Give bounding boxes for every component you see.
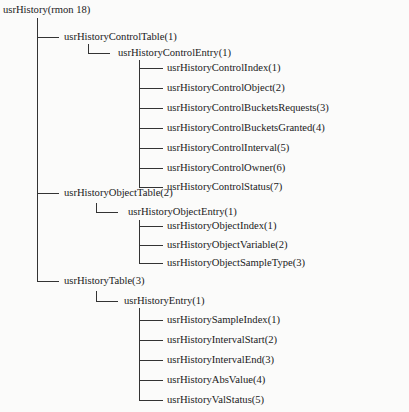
connector-line bbox=[139, 263, 163, 264]
leaf-node: usrHistoryControlStatus(7) bbox=[167, 181, 282, 193]
leaf-node: usrHistoryAbsValue(4) bbox=[167, 374, 265, 386]
connector-line bbox=[139, 168, 163, 169]
connector-line bbox=[96, 212, 118, 213]
leaf-node: usrHistoryValStatus(5) bbox=[167, 394, 264, 406]
connector-line bbox=[139, 128, 163, 129]
leaf-node: usrHistoryIntervalEnd(3) bbox=[167, 354, 274, 366]
connector-line bbox=[139, 148, 163, 149]
node-history-table: usrHistoryTable(3) bbox=[64, 275, 144, 287]
elbow-line bbox=[88, 44, 89, 53]
connector-line bbox=[96, 301, 118, 302]
connector-line bbox=[139, 360, 163, 361]
leaf-node: usrHistoryObjectVariable(2) bbox=[167, 239, 288, 251]
branch-line bbox=[37, 193, 59, 194]
elbow-line bbox=[88, 53, 110, 54]
root-node: usrHistory(rmon 18) bbox=[3, 4, 90, 16]
node-control-entry: usrHistoryControlEntry(1) bbox=[118, 47, 231, 59]
leaf-node: usrHistoryControlBucketsRequests(3) bbox=[167, 102, 329, 114]
connector-line bbox=[139, 320, 163, 321]
node-history-entry: usrHistoryEntry(1) bbox=[124, 295, 205, 307]
leaf-node: usrHistoryIntervalStart(2) bbox=[167, 334, 277, 346]
entry-trunk bbox=[139, 308, 140, 400]
node-control-table: usrHistoryControlTable(1) bbox=[64, 31, 177, 43]
leaf-node: usrHistoryControlBucketsGranted(4) bbox=[167, 122, 325, 134]
connector-line bbox=[139, 340, 163, 341]
leaf-node: usrHistoryControlInterval(5) bbox=[167, 142, 289, 154]
leaf-node: usrHistorySampleIndex(1) bbox=[167, 314, 280, 326]
connector-line bbox=[139, 108, 163, 109]
branch-line bbox=[37, 37, 59, 38]
connector-line bbox=[139, 380, 163, 381]
connector-line bbox=[139, 400, 163, 401]
trunk-line bbox=[37, 18, 38, 281]
connector-line bbox=[139, 245, 163, 246]
leaf-node: usrHistoryObjectIndex(1) bbox=[167, 220, 276, 232]
leaf-node: usrHistoryControlObject(2) bbox=[167, 82, 285, 94]
leaf-node: usrHistoryControlOwner(6) bbox=[167, 162, 285, 174]
connector-line bbox=[96, 203, 97, 212]
node-object-table: usrHistoryObjectTable(2) bbox=[64, 187, 173, 199]
node-object-entry: usrHistoryObjectEntry(1) bbox=[128, 206, 237, 218]
branch-line bbox=[37, 281, 59, 282]
leaf-node: usrHistoryControlIndex(1) bbox=[167, 62, 281, 74]
connector-line bbox=[96, 291, 97, 301]
connector-line bbox=[139, 226, 163, 227]
leaf-node: usrHistoryObjectSampleType(3) bbox=[167, 257, 305, 269]
connector-line bbox=[139, 68, 163, 69]
connector-line bbox=[139, 88, 163, 89]
